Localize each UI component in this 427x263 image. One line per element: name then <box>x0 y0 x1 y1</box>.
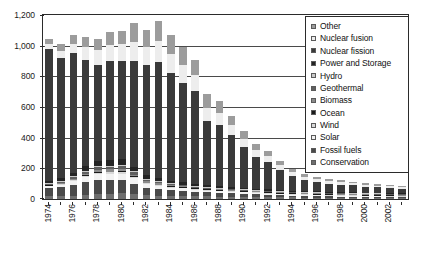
bar-segment <box>216 113 224 125</box>
bar-segment <box>57 187 65 196</box>
bar-segment <box>130 23 138 41</box>
y-axis-tick-label: 400 <box>21 133 35 142</box>
bar-segment <box>362 198 370 199</box>
bar-segment <box>240 139 248 147</box>
bar-segment <box>155 41 163 62</box>
bar-segment <box>155 21 163 41</box>
bar-segment <box>191 196 199 199</box>
legend-item-label: Biomass <box>320 96 352 105</box>
bar-segment <box>301 198 309 199</box>
legend-item[interactable]: Other <box>311 20 404 32</box>
legend-item-label: Fossil fuels <box>320 146 361 155</box>
x-axis-tick <box>279 202 280 205</box>
bar-segment <box>203 108 211 121</box>
x-axis-tick-label: 1998 <box>336 204 345 223</box>
bar-segment <box>143 188 151 195</box>
bar-segment <box>155 62 163 178</box>
bar-segment <box>70 44 78 53</box>
legend-item-label: Geothermal <box>320 84 363 93</box>
bar-column <box>57 44 65 199</box>
bar-segment <box>45 49 53 181</box>
legend-swatch-icon <box>311 148 316 153</box>
bar-column <box>167 35 175 199</box>
bar-segment <box>252 197 260 199</box>
bar-column <box>240 131 248 199</box>
bar-segment <box>264 197 272 199</box>
bar-segment <box>106 194 114 199</box>
bar-segment <box>216 197 224 199</box>
legend-swatch-icon <box>311 86 316 91</box>
legend-item[interactable]: Geothermal <box>311 82 404 94</box>
bar-segment <box>106 180 114 194</box>
legend-item[interactable]: Biomass <box>311 94 404 106</box>
x-axis-tick-label: 1986 <box>190 204 199 223</box>
bar-column <box>130 23 138 199</box>
bar-column <box>252 144 260 199</box>
bar-segment <box>82 195 90 199</box>
bar-segment <box>94 180 102 195</box>
bar-column <box>337 180 345 199</box>
bar-segment <box>167 196 175 199</box>
legend-item[interactable]: Ocean <box>311 107 404 119</box>
x-axis-tick <box>85 202 86 205</box>
bar-segment <box>289 197 297 199</box>
legend-swatch-icon <box>311 73 316 78</box>
bar-segment <box>240 197 248 199</box>
bar-segment <box>179 65 187 83</box>
legend-item[interactable]: Nuclear fission <box>311 45 404 57</box>
x-axis-tick <box>255 202 256 205</box>
bar-segment <box>130 42 138 62</box>
y-axis-tick-label: 0 <box>30 195 35 204</box>
bar-segment <box>130 184 138 195</box>
legend-item[interactable]: Fossil fuels <box>311 144 404 156</box>
legend-item[interactable]: Hydro <box>311 70 404 82</box>
legend-item-label: Nuclear fission <box>320 47 374 56</box>
x-axis-tick-label: 1996 <box>311 204 320 223</box>
bar-column <box>94 39 102 199</box>
bar-segment <box>179 83 187 183</box>
bar-column <box>45 39 53 199</box>
bar-segment <box>130 61 138 166</box>
bar-column <box>313 177 321 199</box>
bar-segment <box>143 65 151 175</box>
bar-segment <box>264 162 272 189</box>
bar-segment <box>130 194 138 199</box>
bar-column <box>264 151 272 199</box>
legend-item[interactable]: Wind <box>311 119 404 131</box>
legend-item-label: Hydro <box>320 72 342 81</box>
bar-segment <box>179 47 187 64</box>
y-axis-labels: 02004006008001,0001,200 <box>0 14 40 200</box>
bar-column <box>289 169 297 199</box>
y-axis-tick-label: 800 <box>21 72 35 81</box>
bar-segment <box>203 196 211 199</box>
legend-swatch-icon <box>311 110 316 115</box>
bar-segment <box>155 196 163 199</box>
legend-item[interactable]: Solar <box>311 132 404 144</box>
legend-swatch-icon <box>311 24 316 29</box>
bar-segment <box>106 32 114 45</box>
bar-segment <box>349 198 357 199</box>
bar-segment <box>106 61 114 160</box>
legend-item[interactable]: Nuclear fusion <box>311 32 404 44</box>
bar-column <box>386 185 394 199</box>
legend-item[interactable]: Power and Storage <box>311 57 404 69</box>
bar-segment <box>240 147 248 188</box>
chart-legend: OtherNuclear fusionNuclear fissionPower … <box>305 16 409 173</box>
bar-segment <box>325 198 333 199</box>
legend-item[interactable]: Conservation <box>311 156 404 168</box>
x-axis-tick <box>60 202 61 205</box>
bar-segment <box>82 47 90 59</box>
bar-segment <box>118 193 126 199</box>
x-axis-tick <box>133 202 134 205</box>
bar-segment <box>70 196 78 199</box>
legend-item-label: Solar <box>320 133 339 142</box>
legend-swatch-icon <box>311 48 316 53</box>
x-axis-tick-label: 1990 <box>238 204 247 223</box>
y-axis-tick-label: 600 <box>21 103 35 112</box>
x-axis-labels: 1974197619781980198219841986198819901992… <box>42 202 409 260</box>
bar-segment <box>118 180 126 193</box>
x-axis-tick-label: 1984 <box>165 204 174 223</box>
bar-segment <box>94 194 102 199</box>
bar-segment <box>118 61 126 159</box>
bar-segment <box>398 198 406 199</box>
